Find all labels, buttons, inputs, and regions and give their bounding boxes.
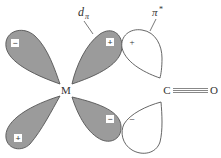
metal-label: M bbox=[61, 84, 71, 96]
d-lobe-top-left: − bbox=[6, 30, 60, 84]
svg-text:d: d bbox=[78, 5, 85, 19]
carbon-monoxide: C O bbox=[163, 84, 218, 96]
plus-sign-icon: + bbox=[15, 133, 20, 143]
pi-star-lobe-bottom: − bbox=[122, 102, 162, 153]
orbital-diagram: − + + − + − d π π * M C bbox=[0, 0, 221, 158]
d-pi-label: d π bbox=[78, 5, 93, 34]
plus-sign-icon: + bbox=[107, 37, 112, 47]
d-lobe-top-right: + bbox=[72, 31, 122, 84]
svg-text:π: π bbox=[85, 12, 90, 21]
d-lobe-bottom-left: + bbox=[6, 96, 60, 149]
leader-line bbox=[84, 21, 93, 34]
minus-sign-icon: − bbox=[129, 114, 135, 125]
plus-sign-icon: + bbox=[129, 37, 134, 47]
d-lobe-bottom-right: − bbox=[72, 97, 121, 141]
minus-sign-icon: − bbox=[107, 114, 112, 124]
carbon-label: C bbox=[163, 84, 170, 96]
pi-star-label: π * bbox=[150, 5, 163, 31]
svg-text:π: π bbox=[152, 6, 158, 18]
minus-sign-icon: − bbox=[12, 38, 17, 48]
pi-star-lobe-top: + bbox=[122, 30, 162, 78]
leader-line bbox=[150, 19, 156, 31]
svg-text:*: * bbox=[159, 5, 163, 14]
oxygen-label: O bbox=[210, 84, 218, 96]
